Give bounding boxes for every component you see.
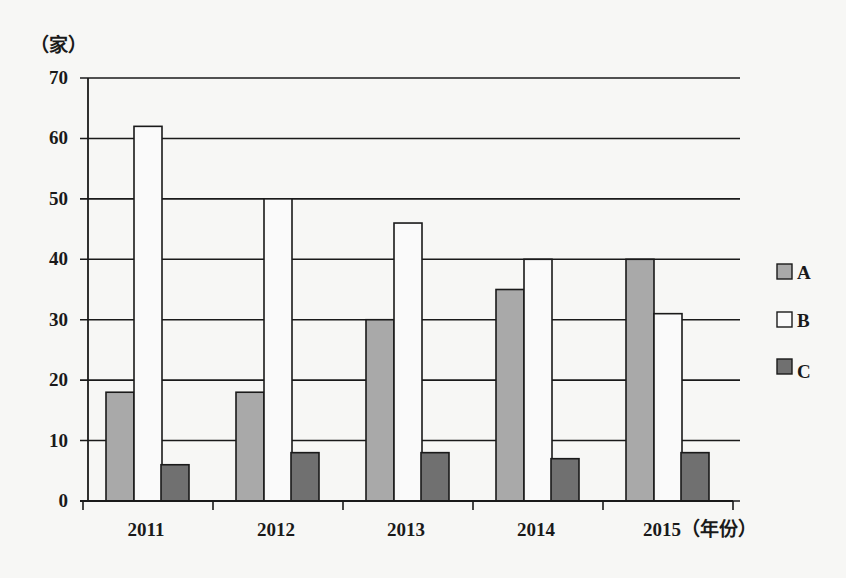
legend-label-c: C [797,361,811,382]
bar-b-2015 [654,314,682,501]
y-tick-label: 20 [49,369,68,390]
legend-label-b: B [797,310,810,331]
bar-b-2011 [134,126,162,501]
y-axis: 010203040506070 [49,67,88,511]
y-tick-label: 30 [49,309,68,330]
y-tick-label: 10 [49,430,68,451]
bar-a-2013 [366,320,394,501]
bar-c-2015 [681,453,709,501]
y-tick-label: 60 [49,127,68,148]
legend-swatch-b [777,312,792,327]
x-tick-label: 2014 [517,519,556,540]
x-tick-label: 2013 [387,519,425,540]
bar-a-2015 [626,259,654,501]
bar-b-2012 [264,199,292,501]
x-tick-label: 2011 [128,519,165,540]
y-tick-label: 40 [49,248,68,269]
bars [106,126,709,501]
y-tick-label: 0 [59,490,69,511]
legend-swatch-a [777,264,792,279]
y-tick-label: 50 [49,188,68,209]
bar-a-2012 [236,392,264,501]
x-axis: 20112012201320142015（年份） [80,501,757,540]
bar-c-2013 [421,453,449,501]
bar-a-2014 [496,290,524,502]
bar-c-2014 [551,459,579,501]
legend: ABC [777,262,811,382]
bar-a-2011 [106,392,134,501]
bar-chart: 010203040506070 20112012201320142015（年份）… [0,0,846,578]
y-tick-label: 70 [49,67,68,88]
y-axis-label: （家） [30,34,87,56]
x-tick-label: 2012 [257,519,295,540]
bar-b-2013 [394,223,422,501]
legend-label-a: A [797,262,811,283]
bar-b-2014 [524,259,552,501]
bar-c-2011 [161,465,189,501]
bar-c-2012 [291,453,319,501]
legend-swatch-c [777,359,792,374]
x-tick-label: 2015（年份） [643,518,757,540]
